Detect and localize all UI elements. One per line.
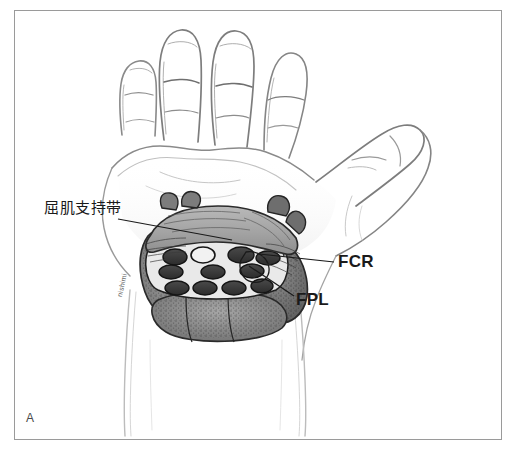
label-fpl: FPL	[296, 291, 329, 308]
figure-frame-border	[14, 10, 502, 440]
label-fcr: FCR	[338, 253, 374, 270]
figure-container: 屈肌支持带 FCR FPL A nishimi	[0, 0, 516, 454]
panel-letter: A	[26, 412, 34, 424]
label-flexor-retinaculum: 屈肌支持带	[44, 201, 122, 216]
